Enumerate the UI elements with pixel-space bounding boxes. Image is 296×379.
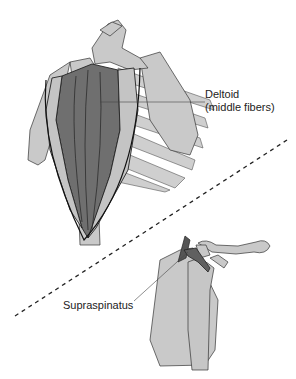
deltoid-label-line2: (middle fibers) bbox=[205, 101, 275, 114]
deltoid-label: Deltoid (middle fibers) bbox=[205, 88, 275, 114]
anatomy-illustration bbox=[0, 0, 296, 379]
deltoid-middle-fibers bbox=[45, 64, 140, 240]
scapula bbox=[140, 52, 198, 155]
supraspinatus-label: Supraspinatus bbox=[63, 299, 133, 312]
anatomy-figure: Deltoid (middle fibers) Supraspinatus bbox=[0, 0, 296, 379]
deltoid-label-line1: Deltoid bbox=[205, 88, 275, 101]
